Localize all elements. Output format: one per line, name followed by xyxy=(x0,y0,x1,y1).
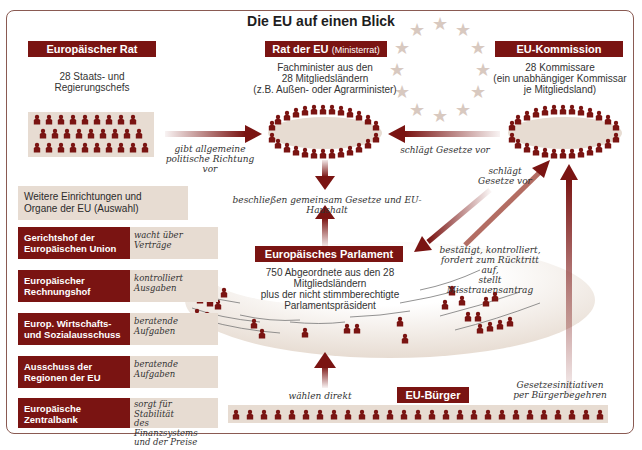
page-title: Die EU auf einen Blick xyxy=(0,13,642,29)
arrow-council-to-council-eu-icon xyxy=(165,125,262,143)
citizens-header: EU-Bürger xyxy=(397,387,469,403)
institution-committee-of-regions: Ausschuss derRegionen der EU beratendeAu… xyxy=(18,356,218,388)
label-parliament-controls: bestätigt, kontrolliert,fordert zum Rück… xyxy=(435,245,545,295)
council-eu-desc: Fachminister aus den28 Mitgliedsländern(… xyxy=(245,62,405,95)
svg-text:★: ★ xyxy=(432,106,448,126)
svg-text:★: ★ xyxy=(470,38,486,58)
label-commission-proposes-parliament: schlägtGesetze vor xyxy=(470,166,540,186)
label-political-direction: gibt allgemeinepolitische Richtung vor xyxy=(160,144,260,174)
svg-text:★: ★ xyxy=(455,100,471,120)
commission-desc: 28 Kommissare(ein unabhängiger Kommissar… xyxy=(480,62,640,95)
commission-header: EU-Kommission xyxy=(495,41,623,57)
svg-text:★: ★ xyxy=(409,100,425,120)
european-council-desc: 28 Staats- undRegierungschefs xyxy=(28,71,156,93)
institution-central-bank: EuropäischeZentralbank sorgt für Stabili… xyxy=(18,398,218,428)
arrow-citizens-to-parliament-icon xyxy=(314,352,336,388)
arrow-council-eu-down-icon xyxy=(315,160,335,190)
parliament-header: Europäisches Parlament xyxy=(255,246,403,262)
institution-court-of-justice: Gerichtshof derEuropäischen Union wacht … xyxy=(18,227,218,259)
institution-economic-social-committee: Europ. Wirtschafts-und Sozialausschuss b… xyxy=(18,313,218,345)
council-eu-header: Rat der EU (Ministerrat) xyxy=(265,41,387,57)
label-citizens-initiative: Gesetzesinitiativenper Bürgerbegehren xyxy=(510,380,610,400)
european-council-header: Europäischer Rat xyxy=(28,41,156,57)
label-direct-election: wählen direkt xyxy=(280,391,360,401)
label-commission-proposes: schlägt Gesetze vor xyxy=(395,145,495,155)
institution-court-of-auditors: EuropäischerRechnungshof kontrolliertAus… xyxy=(18,270,218,302)
label-joint-decision: beschließen gemeinsam Gesetze und EU-Hau… xyxy=(222,195,432,215)
parliament-desc: 750 Abgeordnete aus den 28 Mitgliedsländ… xyxy=(235,267,425,311)
arrow-commission-to-council-eu-icon xyxy=(388,125,500,143)
svg-text:★: ★ xyxy=(394,38,410,58)
institutions-heading: Weitere Einrichtungen undOrgane der EU (… xyxy=(18,186,188,220)
